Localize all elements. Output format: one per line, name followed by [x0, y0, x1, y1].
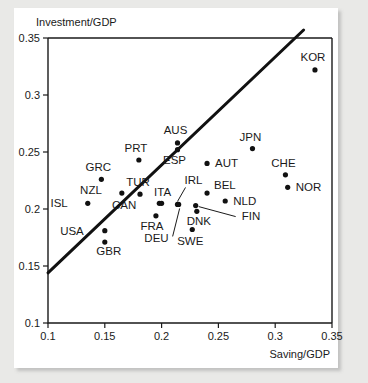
data-point-marker [136, 157, 141, 162]
leader-line [173, 208, 180, 236]
data-point-marker [153, 213, 158, 218]
y-tick-label: 0.35 [19, 32, 40, 44]
x-tick-label: 0.25 [208, 330, 229, 342]
data-point-marker [102, 228, 107, 233]
y-tick-label: 0.2 [25, 203, 40, 215]
data-point-label: DEU [144, 232, 168, 244]
data-point-marker [137, 192, 142, 197]
data-point-label: ITA [154, 186, 171, 198]
data-point-label: NOR [296, 181, 322, 193]
data-point-marker [204, 190, 209, 195]
data-point-label: SWE [177, 235, 204, 247]
x-tick-label: 0.1 [40, 330, 55, 342]
data-point-label: ESP [163, 154, 186, 166]
scatter-plot: Investment/GDP Saving/GDP 0.10.150.20.25… [0, 0, 368, 383]
data-point-marker [283, 172, 288, 177]
x-tick-label: 0.15 [94, 330, 115, 342]
data-point-label: PRT [124, 142, 147, 154]
data-point-marker [159, 201, 164, 206]
x-tick-label: 0.35 [321, 330, 342, 342]
y-axis-title: Investment/GDP [36, 16, 117, 28]
data-point-label: CHE [271, 157, 296, 169]
data-point-label: ISL [50, 197, 68, 209]
data-point-label: NZL [80, 184, 102, 196]
data-point-label: CAN [112, 199, 136, 211]
data-point-label: DNK [187, 215, 212, 227]
data-point-marker [190, 227, 195, 232]
data-point-label: BEL [214, 179, 236, 191]
data-point-label: TUR [126, 176, 150, 188]
data-point-marker [204, 161, 209, 166]
leader-line [178, 187, 186, 201]
data-point-labels: ISLNZLGRCUSAGBRTURPRTCANFRAAUSESPITAIRLD… [50, 51, 325, 257]
data-point-marker [119, 190, 124, 195]
y-tick-label: 0.1 [25, 317, 40, 329]
data-point-label: JPN [240, 131, 262, 143]
data-point-label: FRA [140, 220, 163, 232]
data-point-marker [312, 67, 317, 72]
data-point-label: GBR [96, 245, 121, 257]
data-point-marker [285, 185, 290, 190]
data-point-label: GRC [86, 161, 112, 173]
x-axis-title: Saving/GDP [269, 348, 330, 360]
x-tick-label: 0.3 [268, 330, 283, 342]
data-point-marker [85, 201, 90, 206]
data-point-label: KOR [300, 51, 325, 63]
y-tick-label: 0.15 [19, 260, 40, 272]
label-leader-lines [173, 187, 236, 236]
data-point-label: NLD [233, 195, 256, 207]
data-point-marker [175, 140, 180, 145]
data-point-label: AUT [215, 157, 238, 169]
x-axis-ticks: 0.10.150.20.250.30.35 [40, 323, 342, 342]
data-point-marker [102, 239, 107, 244]
data-point-marker [175, 147, 180, 152]
data-point-marker [250, 146, 255, 151]
data-point-marker [176, 202, 181, 207]
data-point-label: FIN [242, 210, 261, 222]
data-point-label: USA [60, 225, 84, 237]
y-tick-label: 0.3 [25, 89, 40, 101]
data-point-marker [193, 203, 198, 208]
data-point-marker [223, 198, 228, 203]
data-point-label: AUS [164, 124, 188, 136]
y-tick-label: 0.25 [19, 146, 40, 158]
y-axis-ticks: 0.10.150.20.250.30.35 [19, 32, 48, 329]
data-point-marker [194, 209, 199, 214]
data-point-label: IRL [185, 174, 204, 186]
data-point-marker [99, 177, 104, 182]
x-tick-label: 0.2 [154, 330, 169, 342]
